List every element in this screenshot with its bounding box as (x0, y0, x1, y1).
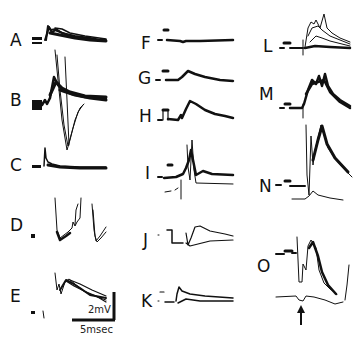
up-arrow-icon (297, 305, 305, 325)
panel-a-traces (32, 26, 106, 44)
panel-l-traces (280, 14, 350, 55)
panel-d-traces (31, 198, 106, 242)
panel-label-o: O (257, 258, 270, 275)
panel-label-a: A (10, 32, 22, 49)
panel-label-b: B (10, 92, 22, 109)
panel-label-m: M (259, 86, 274, 103)
panel-o-traces (276, 237, 349, 304)
panel-label-h: H (139, 108, 152, 125)
panel-g-traces (156, 71, 233, 81)
panel-k-traces (158, 287, 233, 303)
panel-m-traces (280, 74, 350, 118)
panel-label-i: I (145, 165, 150, 182)
panel-c-traces (32, 148, 106, 168)
panel-n-traces (276, 125, 352, 200)
panel-h-traces (158, 101, 233, 120)
panel-label-l: L (263, 38, 272, 55)
panel-j-traces (158, 226, 233, 246)
panel-b-traces (32, 50, 106, 150)
panel-label-d: D (10, 217, 23, 234)
panel-f-traces (158, 30, 233, 42)
time-scale-label: 5msec (80, 325, 113, 335)
panel-i-traces (158, 140, 233, 199)
voltage-scale-label: 2mV (88, 305, 111, 315)
panel-label-e: E (10, 288, 21, 305)
panel-label-k: K (141, 293, 152, 310)
panel-label-j: J (143, 232, 148, 249)
panel-label-n: N (259, 178, 272, 195)
panel-label-c: C (10, 157, 22, 174)
traces-canvas (0, 0, 359, 349)
panel-label-f: F (141, 35, 151, 52)
electrophysiology-figure: A B C D E F G H I J K L M N O 2mV 5msec (0, 0, 359, 349)
panel-label-g: G (138, 70, 151, 87)
